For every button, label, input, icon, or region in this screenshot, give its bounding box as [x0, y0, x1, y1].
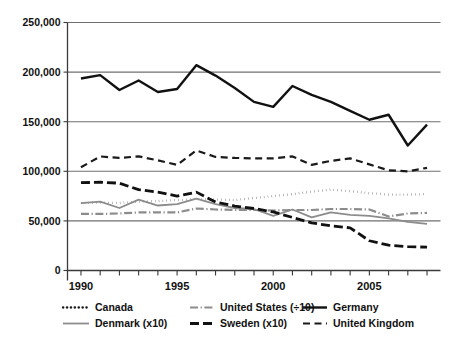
legend-item-denmark-x10[interactable]: Denmark (x10) — [63, 317, 167, 329]
chart-canvas: 050,000100,000150,000200,000250,000 1990… — [0, 0, 451, 346]
x-axis-tick-label: 1990 — [69, 280, 93, 292]
chart-legend: CanadaUnited States (÷10)GermanyDenmark … — [63, 301, 414, 329]
y-axis-tick-label: 100,000 — [23, 165, 61, 177]
y-axis-tick-labels: 050,000100,000150,000200,000250,000 — [23, 16, 61, 276]
x-axis-tick-label: 1995 — [165, 280, 189, 292]
legend-label: United States (÷10) — [220, 301, 314, 313]
y-axis-tick-label: 50,000 — [28, 215, 60, 227]
y-axis-tick-label: 150,000 — [23, 116, 61, 128]
series-line-united-kingdom — [81, 150, 427, 171]
y-axis-tick-label: 200,000 — [23, 66, 61, 78]
legend-label: Canada — [95, 301, 133, 313]
tick-group — [64, 23, 428, 276]
legend-label: Denmark (x10) — [95, 317, 167, 329]
legend-label: Germany — [333, 301, 379, 313]
legend-item-sweden-x10[interactable]: Sweden (x10) — [190, 317, 287, 329]
line-chart: 050,000100,000150,000200,000250,000 1990… — [0, 0, 451, 346]
data-series-group — [81, 65, 427, 247]
series-line-sweden-x10 — [81, 182, 427, 247]
series-line-germany — [81, 65, 427, 145]
legend-label: Sweden (x10) — [220, 317, 287, 329]
legend-label: United Kingdom — [333, 317, 414, 329]
x-axis-tick-labels: 1990199520002005 — [69, 280, 382, 292]
legend-item-united-states-10[interactable]: United States (÷10) — [190, 301, 314, 313]
series-line-canada — [81, 190, 427, 203]
gridline-group — [68, 23, 441, 221]
legend-item-canada[interactable]: Canada — [63, 301, 133, 313]
axis-group — [68, 23, 441, 281]
x-axis-tick-label: 2000 — [261, 280, 285, 292]
legend-item-united-kingdom[interactable]: United Kingdom — [303, 317, 414, 329]
y-axis-tick-label: 250,000 — [23, 16, 61, 28]
x-axis-tick-label: 2005 — [357, 280, 381, 292]
y-axis-tick-label: 0 — [55, 264, 61, 276]
